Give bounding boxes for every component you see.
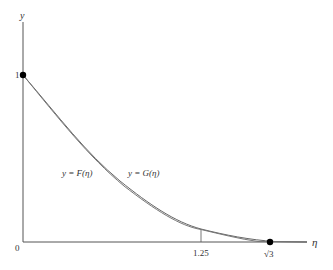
y-axis-label: y xyxy=(19,10,25,21)
curve-g xyxy=(23,75,307,242)
curve-f-label: y = F(η) xyxy=(61,168,93,178)
x-tick-1-25-label: 1.25 xyxy=(193,248,209,258)
origin-label: 0 xyxy=(15,243,20,253)
x-tick-sqrt3-label: √3 xyxy=(264,249,274,259)
point-sqrt3-0 xyxy=(267,239,273,245)
y-tick-1-label: 1 xyxy=(15,70,20,80)
x-axis-label: η xyxy=(312,236,317,248)
curve-g-label: y = G(η) xyxy=(127,168,160,178)
curve-f xyxy=(23,75,307,242)
chart-canvas: y η 0 1 1.25 √3 y = F(η) y = G(η) xyxy=(0,0,333,270)
point-0-1 xyxy=(20,72,26,78)
